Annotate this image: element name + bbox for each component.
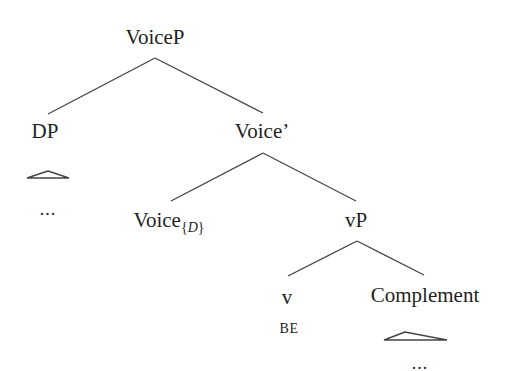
- edge-voicebar-voicehead: [171, 153, 263, 201]
- node-voice-bar: Voice’: [235, 121, 289, 142]
- complement-leaf-ellipsis: ...: [412, 354, 429, 371]
- node-voicep: VoiceP: [125, 27, 184, 48]
- node-v: v: [282, 287, 293, 308]
- voice-head-label: Voice: [133, 208, 180, 232]
- edge-voicep-voicebar: [155, 58, 263, 113]
- node-dp: DP: [32, 121, 59, 142]
- edge-vp-complement: [357, 241, 424, 275]
- edge-voicep-dp: [48, 58, 155, 114]
- v-leaf-be: BE: [280, 322, 299, 336]
- node-vp: vP: [345, 210, 367, 231]
- syntax-tree-diagram: VoiceP DP ... Voice’ Voice{D} vP v BE Co…: [0, 0, 516, 371]
- edge-voicebar-vp: [263, 153, 356, 201]
- complement-triangle-icon: [384, 332, 447, 340]
- dp-triangle-icon: [27, 171, 69, 178]
- edge-vp-v: [288, 241, 357, 276]
- node-complement: Complement: [371, 285, 480, 306]
- tree-edges: [0, 0, 516, 371]
- node-voice-head: Voice{D}: [133, 210, 204, 235]
- voice-head-subscript: {D}: [181, 220, 205, 235]
- dp-leaf-ellipsis: ...: [40, 200, 57, 218]
